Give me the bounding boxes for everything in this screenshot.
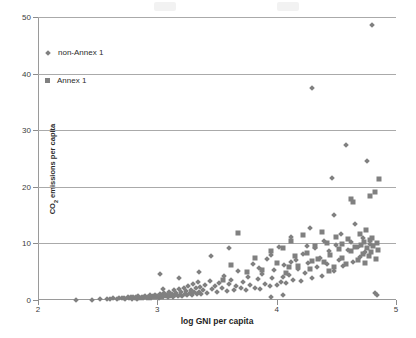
data-point — [288, 238, 293, 243]
x-axis-title: log GNI per capita — [38, 316, 396, 326]
data-point — [293, 258, 299, 264]
data-point — [250, 261, 256, 267]
data-point — [360, 251, 365, 256]
gridline-y-40 — [38, 74, 396, 75]
data-point — [298, 278, 304, 284]
data-point — [310, 258, 315, 263]
data-point — [310, 85, 316, 91]
data-point — [284, 271, 289, 276]
data-point — [367, 194, 372, 199]
data-point — [312, 243, 317, 248]
data-point — [73, 297, 79, 303]
data-point — [374, 293, 380, 299]
data-point — [304, 251, 309, 256]
data-point — [226, 245, 232, 251]
data-point — [355, 258, 360, 263]
data-point — [208, 253, 214, 259]
y-tick-label-30: 30 — [22, 126, 31, 135]
data-point — [236, 268, 242, 274]
data-point — [361, 239, 366, 244]
data-point — [343, 143, 349, 149]
data-point — [362, 260, 367, 265]
y-tick-label-0: 0 — [27, 296, 31, 305]
data-point — [214, 289, 220, 295]
data-point — [224, 288, 230, 294]
data-point — [236, 231, 241, 236]
data-point — [274, 261, 279, 266]
data-point — [267, 284, 273, 290]
data-point — [260, 268, 265, 273]
data-point — [319, 273, 325, 279]
data-point — [268, 249, 273, 254]
data-point — [253, 256, 258, 261]
y-tick-50 — [33, 17, 38, 18]
data-point — [331, 212, 337, 218]
data-point — [314, 264, 320, 270]
data-point — [292, 253, 297, 258]
data-point — [340, 241, 345, 246]
x-tick-label-4: 4 — [274, 305, 278, 314]
data-point — [228, 277, 234, 283]
x-tick-label-2: 2 — [36, 305, 40, 314]
data-point — [343, 261, 348, 266]
y-tick-label-50: 50 — [22, 13, 31, 22]
plot-area: 01020304050 2345 — [38, 17, 396, 300]
data-point — [340, 255, 345, 260]
data-point — [346, 236, 351, 241]
data-point — [207, 278, 213, 284]
data-point — [364, 227, 369, 232]
data-point — [196, 269, 202, 275]
square-marker-icon — [45, 78, 50, 83]
legend-label-annex-1: Annex 1 — [57, 76, 86, 85]
data-point — [334, 234, 339, 239]
data-point — [157, 271, 163, 277]
data-point — [324, 241, 329, 246]
data-point — [255, 276, 261, 282]
legend-item-non-annex-1: non-Annex 1 — [45, 48, 103, 57]
diamond-marker-icon — [45, 50, 51, 56]
data-point — [338, 232, 344, 238]
data-point — [366, 254, 371, 259]
page-top-artifact — [0, 0, 416, 14]
gridline-y-20 — [38, 187, 396, 188]
data-point — [89, 297, 95, 303]
data-point — [205, 290, 211, 296]
data-point — [286, 265, 291, 270]
data-point — [229, 262, 234, 267]
x-tick-label-5: 5 — [394, 305, 398, 314]
gridline-y-50 — [38, 17, 396, 18]
legend-item-annex-1: Annex 1 — [45, 76, 86, 85]
data-point — [316, 257, 321, 262]
y-tick-10 — [33, 243, 38, 244]
data-point — [372, 189, 377, 194]
data-point — [271, 267, 277, 273]
y-tick-label-10: 10 — [22, 239, 31, 248]
data-point — [307, 225, 313, 231]
data-point — [328, 252, 333, 257]
data-point — [377, 176, 382, 181]
data-point — [373, 256, 378, 261]
data-point — [376, 248, 381, 253]
data-point — [240, 279, 246, 285]
data-point — [300, 233, 305, 238]
data-point — [348, 196, 353, 201]
data-point — [220, 277, 225, 282]
data-point — [365, 158, 371, 164]
data-point — [176, 276, 182, 282]
legend-label-non-annex-1: non-Annex 1 — [58, 48, 103, 57]
data-point — [368, 249, 373, 254]
data-point — [269, 275, 275, 281]
data-point — [331, 264, 336, 269]
y-tick-20 — [33, 187, 38, 188]
y-tick-label-20: 20 — [22, 182, 31, 191]
data-point — [245, 275, 251, 281]
data-point — [320, 229, 325, 234]
data-point — [280, 292, 286, 298]
data-point — [327, 269, 332, 274]
data-point — [291, 277, 297, 283]
artifact-mark-right — [277, 2, 299, 11]
data-point — [304, 243, 310, 249]
data-point — [353, 244, 358, 249]
data-point — [280, 245, 285, 250]
data-point — [322, 259, 327, 264]
